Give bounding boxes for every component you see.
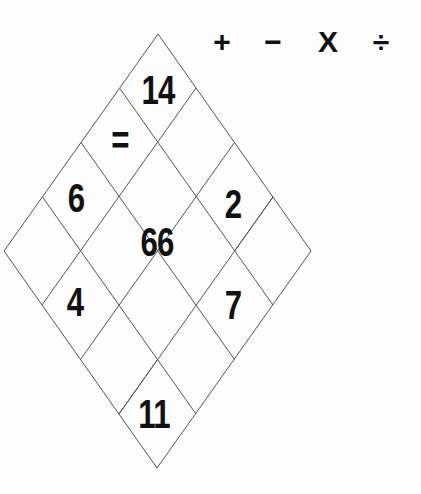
cell-left-upper: 6: [68, 178, 85, 218]
cell-right-upper: 2: [225, 184, 242, 224]
cell-equals: =: [111, 120, 128, 160]
cell-right-lower: 7: [225, 285, 242, 325]
cell-left-lower: 4: [67, 282, 84, 322]
cell-center: 66: [140, 222, 173, 262]
operator-minus[interactable]: −: [264, 20, 282, 64]
cell-top: 14: [141, 70, 174, 110]
operator-multiply[interactable]: X: [318, 20, 338, 64]
cell-bottom: 11: [138, 394, 169, 434]
operator-plus[interactable]: +: [213, 20, 231, 64]
operator-divide[interactable]: ÷: [373, 20, 389, 64]
diamond-grid: [0, 0, 421, 494]
